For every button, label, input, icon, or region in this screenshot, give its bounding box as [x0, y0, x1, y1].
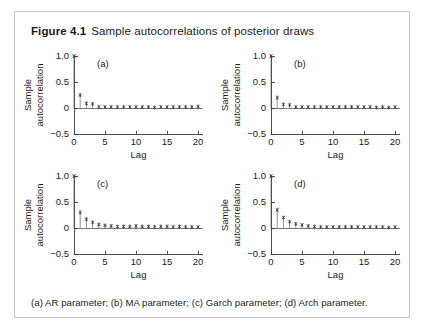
stem-marker	[184, 105, 187, 109]
stem-marker	[319, 225, 322, 229]
x-tick-label: 20	[390, 256, 401, 267]
stem-marker	[282, 216, 285, 220]
x-tick-label: 0	[268, 136, 273, 147]
plot-svg-a: −0.500.51.005101520LagSampleautocorrelat…	[15, 46, 212, 166]
x-tick-label: 15	[359, 136, 370, 147]
figure-container: Figure 4.1Sample autocorrelations of pos…	[14, 11, 410, 318]
chart-panel-a: −0.500.51.005101520LagSampleautocorrelat…	[15, 46, 212, 166]
stem-marker	[91, 220, 94, 224]
stem-marker	[141, 224, 144, 228]
stem-marker	[381, 225, 384, 229]
x-tick-label: 15	[162, 256, 173, 267]
y-tick-label: 0.5	[56, 76, 69, 87]
stem-marker	[387, 106, 390, 110]
stem-marker	[393, 105, 396, 109]
stem-marker	[141, 105, 144, 109]
stem-marker	[381, 105, 384, 109]
plot-svg-d: −0.500.51.005101520LagSampleautocorrelat…	[212, 166, 409, 286]
y-tick-label: 1.0	[56, 50, 69, 61]
x-tick-label: 15	[162, 136, 173, 147]
x-tick-label: 10	[131, 256, 142, 267]
stem-marker	[196, 225, 199, 229]
panel-label: (a)	[97, 58, 109, 69]
stem-marker	[393, 225, 396, 229]
x-tick-label: 0	[268, 256, 273, 267]
x-axis-title: Lag	[328, 269, 344, 280]
stem-marker	[79, 93, 82, 97]
stem-marker	[344, 225, 347, 229]
stem-marker	[147, 105, 150, 109]
stem-marker	[288, 220, 291, 224]
stem-marker	[172, 105, 175, 109]
figure-title: Figure 4.1Sample autocorrelations of pos…	[31, 25, 314, 37]
x-tick-label: 10	[131, 136, 142, 147]
y-axis-title-line: Sample	[219, 79, 230, 111]
stem-marker	[184, 225, 187, 229]
stem-series	[269, 174, 396, 229]
y-tick-label: 0.5	[253, 76, 266, 87]
y-tick-label: 0	[64, 222, 69, 233]
chart-panel-d: −0.500.51.005101520LagSampleautocorrelat…	[212, 166, 409, 286]
stem-marker	[294, 105, 297, 109]
stem-marker	[79, 210, 82, 214]
stem-marker	[128, 224, 131, 228]
stem-marker	[196, 104, 199, 108]
stem-marker	[313, 105, 316, 109]
stem-marker	[338, 225, 341, 229]
y-tick-label: 1.0	[253, 50, 266, 61]
x-tick-label: 20	[193, 136, 204, 147]
y-axis-title-line: Sample	[219, 199, 230, 231]
stem-marker	[122, 224, 125, 228]
stem-marker	[153, 106, 156, 110]
x-tick-label: 0	[71, 256, 76, 267]
axis-spines	[74, 176, 203, 254]
plot-svg-c: −0.500.51.005101520LagSampleautocorrelat…	[15, 166, 212, 286]
stem-marker	[85, 101, 88, 105]
stem-marker	[97, 105, 100, 109]
x-axis-title: Lag	[131, 149, 147, 160]
y-axis-title-line: autocorrelation	[231, 64, 242, 127]
stem-marker	[178, 224, 181, 228]
stem-marker	[165, 105, 168, 109]
figure-title-text: Sample autocorrelations of posterior dra…	[91, 25, 314, 37]
stem-marker	[375, 106, 378, 110]
y-tick-label: 0	[261, 222, 266, 233]
stem-marker	[350, 105, 353, 109]
stem-marker	[116, 224, 119, 228]
y-axis-title-line: Sample	[22, 199, 33, 231]
stem-marker	[276, 96, 279, 100]
stem-marker	[282, 102, 285, 106]
stem-marker	[159, 105, 162, 109]
stem-marker	[85, 217, 88, 221]
x-axis-title: Lag	[131, 269, 147, 280]
stem-marker	[356, 105, 359, 109]
stem-marker	[134, 105, 137, 109]
stem-marker	[350, 225, 353, 229]
x-tick-label: 5	[102, 256, 107, 267]
stem-marker	[313, 224, 316, 228]
y-axis-title-line: Sample	[22, 79, 33, 111]
stem-marker	[128, 105, 131, 109]
stem-marker	[338, 105, 341, 109]
x-tick-label: 0	[71, 136, 76, 147]
y-tick-label: 0.5	[56, 196, 69, 207]
panel-label: (b)	[294, 58, 306, 69]
x-tick-label: 5	[299, 136, 304, 147]
y-tick-label: −0.5	[247, 248, 266, 259]
stem-marker	[307, 105, 310, 109]
stem-marker	[103, 105, 106, 109]
y-axis-title-line: autocorrelation	[231, 184, 242, 247]
stem-marker	[362, 225, 365, 229]
stem-series	[72, 174, 199, 229]
figure-number: Figure 4.1	[31, 25, 86, 37]
stem-marker	[331, 105, 334, 109]
stem-marker	[325, 225, 328, 229]
stem-marker	[190, 225, 193, 229]
stem-marker	[147, 224, 150, 228]
panel-label: (c)	[97, 178, 108, 189]
x-tick-label: 20	[390, 136, 401, 147]
x-tick-label: 10	[328, 256, 339, 267]
stem-marker	[276, 208, 279, 212]
stem-marker	[110, 224, 113, 228]
chart-panel-c: −0.500.51.005101520LagSampleautocorrelat…	[15, 166, 212, 286]
